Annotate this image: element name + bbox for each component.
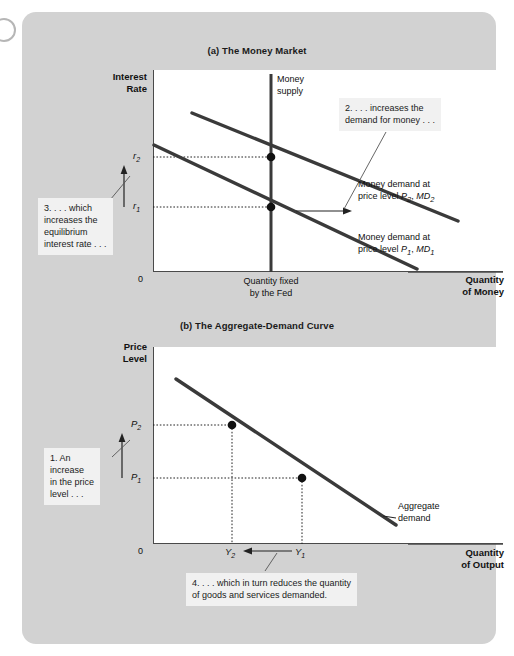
tick-p2-subscript: 2 xyxy=(137,424,141,431)
tick-y2-subscript: 2 xyxy=(231,552,235,559)
panel-b-tick-p2: P2 xyxy=(131,418,141,431)
tick-y1-subscript: 1 xyxy=(301,552,305,559)
callout-1-leader-line xyxy=(112,440,130,457)
panel-b-tick-p1: P1 xyxy=(131,471,141,484)
ad-point-y2-p2 xyxy=(228,421,237,430)
ad-point-y1-p1 xyxy=(298,474,307,483)
aggregate-demand-curve xyxy=(176,379,396,525)
tick-p1-subscript: 1 xyxy=(137,477,141,484)
callout-4-leader-line xyxy=(265,553,277,571)
panel-b-x-axis-label: Quantity of Output xyxy=(408,547,504,571)
panel-b-origin-label: 0 xyxy=(138,546,143,556)
aggregate-demand-label: Aggregate demand xyxy=(398,501,440,524)
callout-step-1: 1. An increase in the price level . . . xyxy=(44,448,100,505)
panel-b-y-axis-label: Price Level xyxy=(78,341,147,365)
output-decrease-arrow-head xyxy=(243,548,252,555)
panel-b-tick-y2: Y2 xyxy=(225,546,235,559)
panel-b-tick-y1: Y1 xyxy=(295,546,305,559)
callout-step-4: 4. . . . which in turn reduces the quant… xyxy=(186,573,357,606)
price-level-increase-arrow-head xyxy=(119,433,126,442)
figure-root: (a) The Money Market Interest Rate Quant… xyxy=(0,0,514,656)
